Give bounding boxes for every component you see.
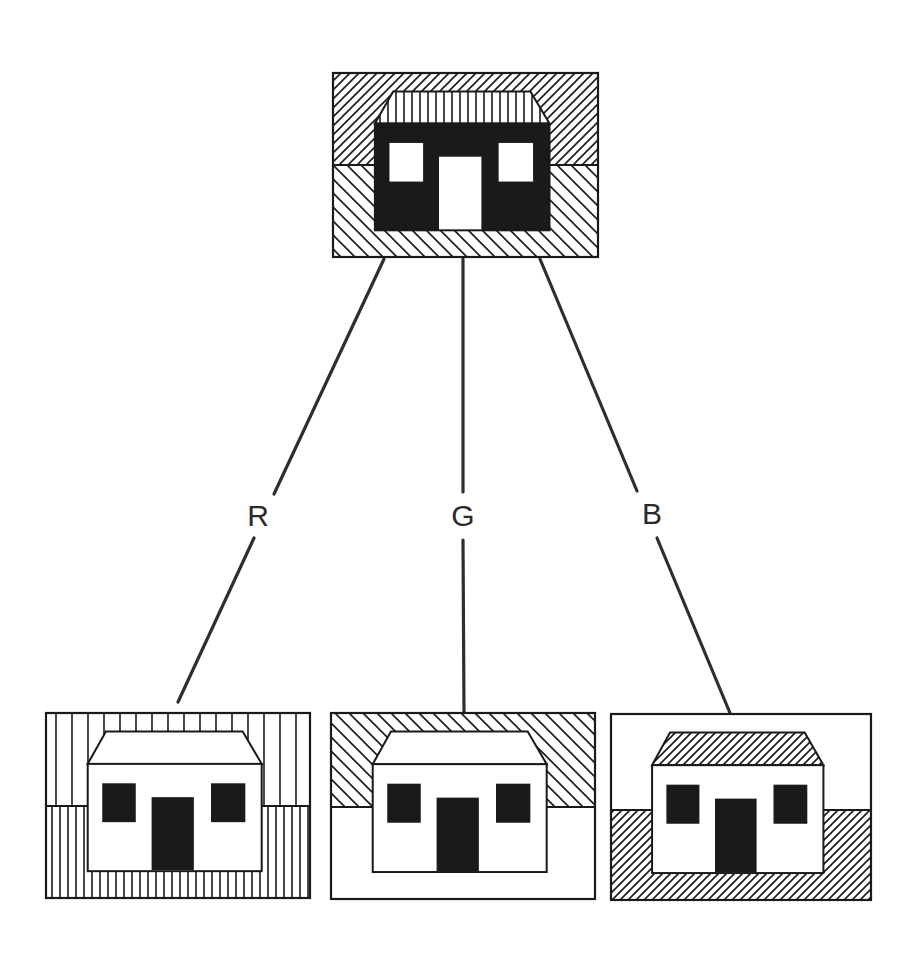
roof <box>652 733 823 766</box>
window-right <box>499 143 533 182</box>
window-right <box>774 785 808 824</box>
channel-image-blue <box>611 714 871 900</box>
window-left <box>666 785 699 824</box>
window-left <box>387 784 421 823</box>
channel-label-blue: B <box>642 499 662 529</box>
window-right <box>211 783 245 822</box>
roof <box>373 732 547 765</box>
window-left <box>389 143 423 182</box>
door <box>437 798 479 871</box>
connector-line-r <box>274 259 384 494</box>
channel-image-red <box>46 713 310 898</box>
rgb-channel-decomposition-diagram: R G B <box>0 0 924 959</box>
connector-line-b <box>657 538 730 713</box>
channel-image-green <box>331 713 595 899</box>
door <box>152 797 194 870</box>
channel-label-green: G <box>451 501 474 531</box>
door <box>439 157 481 230</box>
connector-line-b <box>540 259 637 491</box>
diagram-canvas <box>0 0 924 959</box>
connector-line-r <box>178 538 254 702</box>
source-image-composite <box>333 73 598 257</box>
roof <box>88 732 262 764</box>
roof <box>375 91 550 123</box>
channel-label-red: R <box>247 501 269 531</box>
door <box>715 799 757 872</box>
connector-line-g <box>463 540 464 713</box>
window-right <box>496 784 530 823</box>
window-left <box>102 783 136 822</box>
